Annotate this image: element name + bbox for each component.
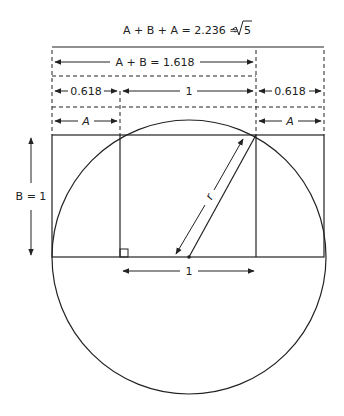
- right-segment-label: 0.618: [274, 85, 306, 98]
- radius-line: [189, 135, 256, 257]
- a-dimensions: A A: [55, 115, 321, 128]
- height-label: B = 1: [16, 190, 47, 203]
- golden-ratio-diagram: A + B + A = 2.236 ≈ 5 A + B = 1.618 0.61…: [0, 0, 344, 416]
- rectangle: [52, 135, 324, 257]
- left-a-label: A: [81, 115, 90, 128]
- outer-rectangle: [52, 135, 324, 257]
- right-angle-icon: [120, 249, 128, 257]
- base-dimension: 1: [123, 265, 254, 278]
- height-dimension: B = 1: [16, 138, 47, 255]
- left-segment-label: 0.618: [70, 85, 102, 98]
- middle-segment-label: 1: [186, 85, 193, 98]
- radius-dimension: r: [176, 139, 243, 254]
- base-label: 1: [186, 265, 193, 278]
- segment-dimensions: 0.618 1 0.618: [55, 85, 321, 98]
- radius-label: r: [203, 190, 217, 202]
- a-plus-b-label: A + B = 1.618: [116, 56, 195, 69]
- title: A + B + A = 2.236 ≈ 5: [123, 21, 252, 37]
- title-root: 5: [244, 24, 251, 37]
- right-a-label: A: [285, 115, 294, 128]
- title-text: A + B + A = 2.236 ≈: [123, 24, 238, 37]
- a-plus-b-dimension: A + B = 1.618: [55, 56, 253, 69]
- center-point: [187, 255, 191, 259]
